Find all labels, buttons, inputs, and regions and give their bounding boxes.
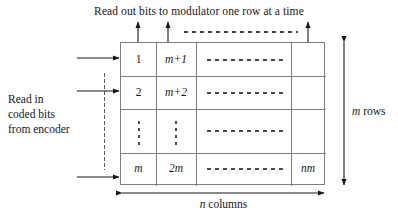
figure-title-readout: Read out bits to modulator one row at a … xyxy=(0,5,398,17)
interleaver-grid: 1 m+1 2 m+2 m 2m nm xyxy=(120,42,325,185)
grid-column-divider-2 xyxy=(196,43,197,186)
grid-cell-r2c3-ellipsis xyxy=(205,92,283,94)
grid-cell-r4c3-ellipsis xyxy=(205,168,283,170)
grid-row-divider-3 xyxy=(121,153,326,154)
grid-cell-r3c3-ellipsis xyxy=(205,130,283,132)
grid-cell-r1c3-ellipsis xyxy=(205,59,283,61)
readin-line-1: Read in xyxy=(8,92,84,107)
grid-cell-r2c1: 2 xyxy=(121,86,156,98)
grid-cell-r1c2: m+1 xyxy=(156,53,196,65)
grid-cell-r3c1-ellipsis xyxy=(138,119,140,145)
figure-label-n-columns: n columns xyxy=(122,198,325,210)
figure-label-m-rows: m rows xyxy=(352,105,386,117)
grid-cell-r2c2: m+2 xyxy=(156,86,196,98)
readout-guide-dotted-line xyxy=(182,31,298,33)
grid-row-divider-1 xyxy=(121,76,326,77)
readin-line-3: from encoder xyxy=(8,122,84,137)
readin-line-2: coded bits xyxy=(8,107,84,122)
readin-guide-dotted-line xyxy=(104,72,105,170)
grid-row-divider-2 xyxy=(121,109,326,110)
figure-label-readin: Read in coded bits from encoder xyxy=(8,92,84,137)
figure-canvas: Read out bits to modulator one row at a … xyxy=(0,0,398,216)
grid-cell-r4c1: m xyxy=(121,162,156,174)
grid-cell-r4c4: nm xyxy=(291,162,325,174)
grid-cell-r3c2-ellipsis xyxy=(175,119,177,145)
grid-cell-r1c1: 1 xyxy=(121,53,156,65)
grid-cell-r4c2: 2m xyxy=(156,162,196,174)
